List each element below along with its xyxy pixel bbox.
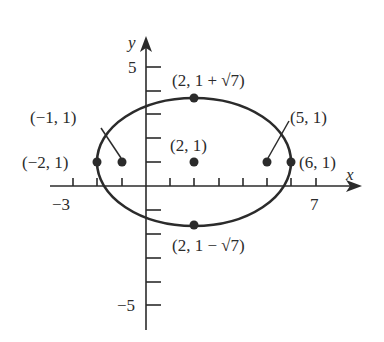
point-covertex-bottom [190,221,199,230]
y-axis-label: y [126,33,136,52]
point-focus-right [263,158,272,167]
label-covertex-top: (2, 1 + √7) [172,71,245,90]
ellipse-diagram: y x 5 −5 −3 7 (−2, 1) (−1, 1) (2, 1) (5,… [0,0,384,342]
points [93,94,296,230]
y-tick-label-neg5: −5 [117,296,135,315]
label-covertex-bottom: (2, 1 − √7) [172,236,245,255]
y-tick-label-5: 5 [128,58,137,77]
point-focus-left [118,158,127,167]
label-center: (2, 1) [170,136,207,155]
label-focus-left: (−1, 1) [30,108,76,127]
label-vertex-right: (6, 1) [299,153,336,172]
y-axis [140,36,161,330]
leader-line-left-focus [101,128,121,158]
x-axis-label: x [345,165,354,184]
label-vertex-left: (−2, 1) [22,153,68,172]
point-vertex-left [93,158,102,167]
point-vertex-right [287,158,296,167]
point-covertex-top [190,94,199,103]
x-tick-label-neg3: −3 [52,195,70,214]
label-focus-right: (5, 1) [290,108,327,127]
point-center [190,158,199,167]
x-tick-label-7: 7 [310,195,319,214]
x-axis [50,178,362,192]
